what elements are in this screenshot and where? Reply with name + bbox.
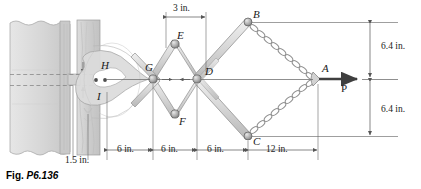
force-label-P: P	[341, 83, 347, 94]
dim-label-3in: 3 in.	[173, 4, 190, 14]
wall-block	[10, 21, 70, 155]
dim-label-6_4in-lower: 6.4 in.	[381, 105, 405, 115]
point-label-E: E	[177, 30, 184, 41]
dim-label-6in-3: 6 in.	[207, 145, 224, 155]
dim-label-1_5in: 1.5 in.	[65, 156, 89, 166]
chain-upper	[249, 23, 315, 80]
point-label-F: F	[179, 116, 186, 127]
figure-caption: Fig. P6.136	[6, 170, 58, 181]
dim-label-6in-2: 6 in.	[161, 145, 178, 155]
point-label-A: A	[322, 63, 329, 74]
point-label-G: G	[145, 62, 153, 73]
dim-label-6_4in-upper: 6.4 in.	[381, 42, 405, 52]
point-label-I: I	[97, 91, 101, 102]
chain-lower	[249, 78, 315, 134]
diagram-canvas	[0, 0, 421, 189]
caption-number: P6.136	[27, 170, 59, 181]
dim-label-12in: 12 in.	[266, 145, 288, 155]
point-label-C: C	[253, 136, 260, 147]
ring-at-A	[311, 72, 320, 86]
point-label-H: H	[101, 60, 109, 71]
caption-prefix: Fig.	[6, 170, 24, 181]
point-label-D: D	[205, 66, 213, 77]
dim-label-6in-1: 6 in.	[117, 145, 134, 155]
point-label-B: B	[253, 9, 260, 20]
figure-container: A B C D E F G H I P 3 in. 6.4 in. 6.4 in…	[0, 0, 421, 189]
